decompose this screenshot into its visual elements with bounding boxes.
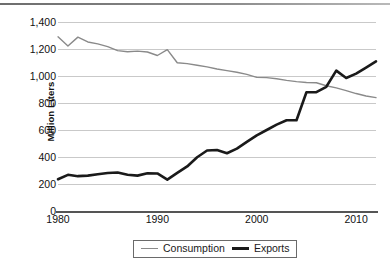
y-tick-label: 400: [8, 152, 56, 163]
legend-line-icon-exports: [232, 247, 249, 250]
legend-label-exports: Exports: [254, 243, 290, 254]
x-axis-line: [56, 211, 378, 213]
y-tick-label: 800: [8, 98, 56, 109]
x-tick-label: 2010: [326, 214, 386, 225]
chart-legend: Consumption Exports: [133, 240, 297, 258]
legend-line-icon-consumption: [141, 248, 158, 249]
series-lines: [58, 22, 376, 211]
legend-label-consumption: Consumption: [163, 243, 225, 254]
y-tick-label: 1,400: [8, 17, 56, 28]
chart-figure: 02004006008001,0001,2001,400 19801990200…: [0, 0, 390, 272]
y-tick-label: 1,200: [8, 44, 56, 55]
x-tick-label: 1990: [127, 214, 187, 225]
y-tick-label: 200: [8, 179, 56, 190]
figure-caption: [4, 263, 224, 271]
x-tick-label: 1980: [28, 214, 88, 225]
x-tick-label: 2000: [227, 214, 287, 225]
y-tick-label: 600: [8, 125, 56, 136]
legend-item-consumption[interactable]: Consumption: [141, 243, 225, 254]
series-line-consumption: [58, 37, 376, 98]
top-divider-rule: [0, 3, 390, 5]
plot-area: [58, 22, 376, 211]
series-line-exports: [58, 61, 376, 179]
legend-item-exports[interactable]: Exports: [232, 243, 290, 254]
y-tick-label: 1,000: [8, 71, 56, 82]
